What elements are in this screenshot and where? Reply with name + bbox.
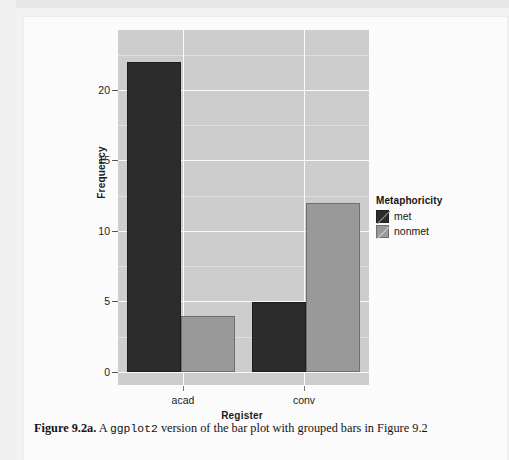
legend-item-met: met [376,209,496,224]
bar-met-acad [127,62,181,372]
legend-key-nonmet-icon [376,225,389,238]
bar-nonmet-conv [306,203,360,372]
x-axis-title: Register [182,410,302,421]
legend-label-nonmet: nonmet [394,225,429,238]
x-tick-mark-conv [304,386,305,391]
x-tick-mark-acad [183,386,184,391]
legend-key-met-icon [376,210,389,223]
page-top-edge [0,0,509,8]
y-tick-mark-15 [112,160,118,161]
y-axis-title: Frequency [96,128,107,218]
legend-label-met: met [394,210,412,223]
legend: Metaphoricity met nonmet [376,195,496,239]
y-tick-mark-20 [112,90,118,91]
gridline-major-0 [118,372,369,373]
x-tick-label-conv: conv [274,394,334,406]
figure-9-2a: Frequency 20 15 10 5 0 acad conv Registe… [24,17,507,460]
y-tick-mark-0 [112,372,118,373]
x-tick-label-acad: acad [153,394,213,406]
y-tick-label-0: 0 [82,366,110,378]
legend-item-nonmet: nonmet [376,224,496,239]
bar-met-conv [252,302,306,373]
y-tick-label-20: 20 [82,84,110,96]
caption-text-after: version of the bar plot with grouped bar… [158,421,428,435]
plot-panel [118,30,369,385]
bar-nonmet-acad [181,316,235,372]
y-tick-label-15: 15 [82,154,110,166]
page-left-edge [0,0,16,460]
caption-label: Figure 9.2a. [34,421,96,435]
gridline-minor-22_5 [118,55,369,56]
caption-mono-ggplot2: ggplot2 [110,423,158,435]
y-tick-mark-5 [112,301,118,302]
caption-text-before: A [96,421,110,435]
figure-caption: Figure 9.2a. A ggplot2 version of the ba… [34,421,504,437]
y-tick-mark-10 [112,231,118,232]
y-tick-label-10: 10 [82,225,110,237]
legend-title: Metaphoricity [376,195,496,206]
y-tick-label-5: 5 [82,295,110,307]
